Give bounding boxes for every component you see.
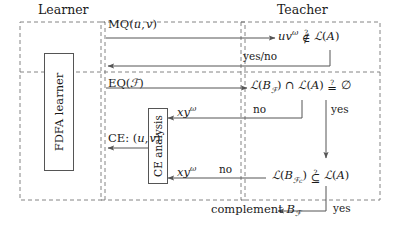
yes-no-label: yes/no (243, 51, 277, 62)
ce-analysis-label: CE analysis (152, 115, 164, 177)
emptiness-yes-label: yes (331, 104, 349, 115)
inclusion-no-label: no (219, 164, 232, 175)
learner-region-title: Learner (38, 4, 89, 17)
mq-label: MQ(u, v) (108, 19, 157, 31)
membership-query-label: uvω ?∉ ℒ(A) (278, 29, 339, 44)
inclusion-query-label: ℒ(Bℱc) ?⊆ ℒ(A) (272, 169, 349, 184)
yes-no-arrow (108, 50, 330, 66)
ce-label: CE: (u, v) (108, 133, 160, 145)
figure-canvas: Learner Teacher FDFA learner CE analysis… (0, 0, 397, 230)
emptiness-no-label: no (253, 104, 266, 115)
teacher-region-title: Teacher (277, 4, 328, 17)
ce-analysis-box[interactable]: CE analysis (148, 108, 168, 184)
fdfa-learner-label: FDFA learner (52, 73, 66, 152)
emptiness-query-label: ℒ(Bℱ) ∩ ℒ(A) ?= ∅ (250, 79, 351, 94)
complement-action-label: complement Bℱ (211, 204, 301, 218)
inclusion-yes-label: yes (333, 203, 351, 214)
fdfa-learner-box[interactable]: FDFA learner (44, 53, 74, 171)
counterexample-2-label: xyω (177, 165, 196, 178)
counterexample-1-label: xyω (177, 105, 196, 118)
eq-label: EQ(ℱ) (108, 78, 144, 90)
